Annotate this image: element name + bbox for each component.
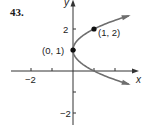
points-layer: (0, 1)(1, 2) <box>42 26 120 55</box>
x-tick-label: −2 <box>25 74 36 85</box>
y-axis-label: y <box>63 0 70 8</box>
y-tick-label: 2 <box>63 24 68 35</box>
y-axis-arrow-icon <box>71 0 76 7</box>
data-point-label: (1, 2) <box>98 27 120 38</box>
x-axis-label: x <box>135 74 142 85</box>
problem-number: 43. <box>10 6 24 18</box>
data-point-label: (0, 1) <box>42 45 64 56</box>
curve-layer <box>73 15 131 85</box>
data-point <box>70 47 75 52</box>
axes: xy <box>11 0 142 125</box>
y-tick-label: −2 <box>60 108 71 119</box>
curve-arrow-up-icon <box>121 15 130 20</box>
x-axis-arrow-icon <box>132 69 139 74</box>
curve-arrow-down-icon <box>121 80 130 85</box>
parabola-chart: 43. xy −22−2 (0, 1)(1, 2) <box>0 0 143 125</box>
data-point <box>91 26 96 31</box>
